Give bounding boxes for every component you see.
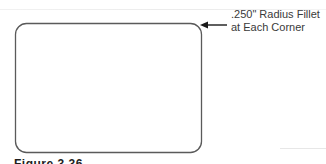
figure-caption: Figure 3.36 xyxy=(14,157,83,164)
fillet-callout-label: .250" Radius Fillet at Each Corner xyxy=(231,8,320,34)
arrow-left-icon xyxy=(200,22,227,29)
callout-line-1: .250" Radius Fillet xyxy=(231,8,320,21)
callout-line-2: at Each Corner xyxy=(231,21,320,34)
rounded-rectangle-outline xyxy=(16,24,202,153)
